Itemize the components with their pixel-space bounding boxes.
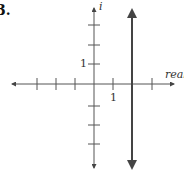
problem-number: 3. [0, 2, 11, 18]
imaginary-unit-label: 1 [80, 57, 87, 70]
imaginary-axis-label: i [99, 0, 103, 13]
real-axis-label: real [165, 68, 184, 81]
real-unit-label: 1 [110, 91, 117, 104]
complex-plane-figure: 3. i 1 1 r [0, 0, 184, 174]
complex-plane-svg [0, 0, 184, 174]
